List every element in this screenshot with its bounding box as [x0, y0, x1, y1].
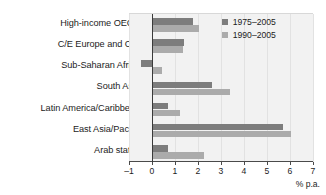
legend-item: 1975–2005 [222, 16, 276, 28]
category-label: C/E Europe and CIS [58, 34, 140, 55]
x-axis-tick-label: 5 [265, 166, 270, 176]
legend-swatch-icon [222, 32, 228, 38]
bar-group [129, 120, 313, 141]
legend-label: 1975–2005 [233, 17, 276, 27]
x-axis: –101234567 [129, 161, 313, 174]
bar [152, 124, 283, 131]
bar [152, 25, 199, 32]
legend-swatch-icon [222, 19, 228, 25]
plot-area [129, 13, 313, 162]
chart-legend: 1975–20051990–2005 [222, 16, 276, 42]
bar [152, 145, 168, 152]
gridline [313, 14, 314, 162]
bar [152, 18, 193, 25]
bar-group [129, 77, 313, 98]
bar [152, 103, 168, 110]
bar [152, 82, 212, 89]
bar-group [129, 141, 313, 162]
x-axis-tick-label: 3 [219, 166, 224, 176]
category-axis: High-income OECDC/E Europe and CISSub-Sa… [0, 13, 148, 161]
zero-axis-line [152, 14, 153, 162]
legend-label: 1990–2005 [233, 30, 276, 40]
x-axis-tick-label: 6 [288, 166, 293, 176]
x-axis-tick-label: 2 [196, 166, 201, 176]
bar-group [129, 35, 313, 56]
x-axis-tick-label: –1 [124, 166, 134, 176]
bar [152, 67, 162, 74]
bar [152, 131, 291, 138]
x-axis-tick-label: 1 [173, 166, 178, 176]
bar [141, 60, 153, 67]
bar [152, 89, 230, 96]
bar-group [129, 14, 313, 35]
bar [152, 39, 184, 46]
bar-group [129, 99, 313, 120]
bar [152, 110, 180, 117]
category-label: Latin America/Caribbean [41, 98, 140, 119]
bar [152, 46, 183, 53]
x-axis-unit-label: % p.a. [296, 179, 320, 189]
x-axis-tick-label: 0 [150, 166, 155, 176]
legend-item: 1990–2005 [222, 29, 276, 41]
x-axis-tick-label: 4 [242, 166, 247, 176]
bar [152, 152, 204, 159]
bar-chart: High-income OECDC/E Europe and CISSub-Sa… [0, 0, 326, 195]
bar-group [129, 56, 313, 77]
x-axis-tick-label: 7 [311, 166, 316, 176]
